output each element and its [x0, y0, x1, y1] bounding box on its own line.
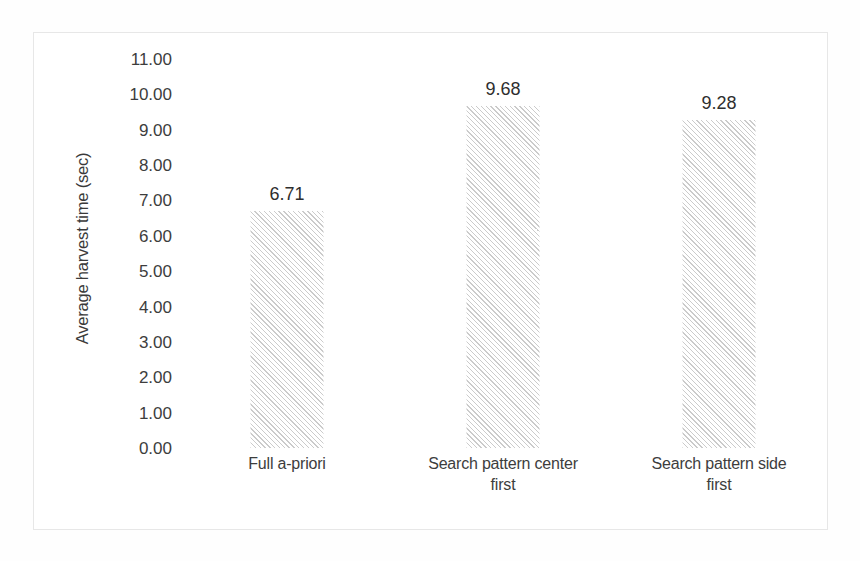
y-axis-tick-label: 10.00 [94, 86, 172, 103]
y-axis-tick-label: 1.00 [94, 404, 172, 421]
x-axis-category-label: Search pattern sidefirst [611, 453, 827, 495]
y-axis-tick-label: 11.00 [94, 51, 172, 68]
bar-group: 6.71 [179, 59, 395, 448]
y-axis-tick-label: 3.00 [94, 333, 172, 350]
y-axis-title: Average harvest time (sec) [73, 119, 92, 379]
y-axis-tick-labels: 11.0010.009.008.007.006.005.004.003.002.… [94, 33, 172, 529]
bar-value-label: 9.68 [485, 80, 520, 98]
y-axis-tick-label: 9.00 [94, 121, 172, 138]
x-axis-category-label: Search pattern centerfirst [395, 453, 611, 495]
bar-value-label: 6.71 [269, 185, 304, 203]
y-axis-tick-label: 7.00 [94, 192, 172, 209]
y-axis-tick-label: 5.00 [94, 263, 172, 280]
y-axis-tick-label: 4.00 [94, 298, 172, 315]
bar-value-label: 9.28 [701, 94, 736, 112]
x-axis-category-label-line: first [611, 474, 827, 495]
bar-group: 9.68 [395, 59, 611, 448]
y-axis-tick-label: 2.00 [94, 369, 172, 386]
x-axis-category-labels: Full a-prioriSearch pattern centerfirstS… [179, 453, 827, 543]
x-axis-category-label-line: Full a-priori [179, 453, 395, 474]
y-axis-tick-label: 6.00 [94, 227, 172, 244]
plot-area: 6.719.689.28 [179, 59, 827, 448]
x-axis-category-label-line: first [395, 474, 611, 495]
chart-figure: Average harvest time (sec) 11.0010.009.0… [0, 0, 860, 561]
bar-group: 9.28 [611, 59, 827, 448]
bar[interactable] [467, 106, 540, 448]
y-axis-tick-label: 8.00 [94, 157, 172, 174]
bar[interactable] [683, 120, 756, 448]
bar[interactable] [251, 211, 324, 448]
x-axis-category-label-line: Search pattern side [611, 453, 827, 474]
chart-frame: Average harvest time (sec) 11.0010.009.0… [33, 32, 828, 530]
x-axis-category-label-line: Search pattern center [395, 453, 611, 474]
x-axis-category-label: Full a-priori [179, 453, 395, 474]
y-axis-tick-label: 0.00 [94, 440, 172, 457]
